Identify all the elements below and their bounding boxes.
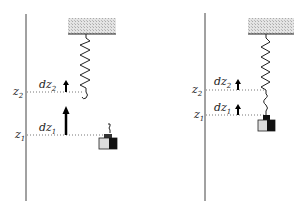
spring-hook bbox=[82, 92, 88, 99]
spring-coil bbox=[261, 34, 270, 90]
right-panel: z2 z1 dz2 dz1 bbox=[191, 13, 294, 201]
dz1-label: dz1 bbox=[39, 121, 56, 136]
z1-label: z1 bbox=[193, 108, 204, 123]
weight-icon bbox=[99, 124, 117, 149]
spring-diagram: z2 z1 dz2 dz1 z2 z1 dz2 dz1 bbox=[0, 0, 308, 214]
z1-label: z1 bbox=[14, 128, 25, 143]
dz2-label: dz2 bbox=[39, 78, 57, 93]
ceiling-block bbox=[248, 18, 294, 34]
z2-label: z2 bbox=[12, 85, 24, 100]
left-panel: z2 z1 dz2 dz1 bbox=[12, 14, 117, 201]
dz2-label: dz2 bbox=[214, 75, 232, 90]
dz2-arrow-icon bbox=[235, 79, 241, 90]
weight-icon bbox=[258, 115, 275, 131]
z2-label: z2 bbox=[191, 83, 203, 98]
ceiling-block bbox=[68, 18, 116, 34]
spring-hook-stretched bbox=[264, 90, 268, 115]
dz1-arrow-icon bbox=[235, 104, 241, 115]
dz1-arrow-icon bbox=[63, 106, 70, 135]
dz2-arrow-icon bbox=[63, 80, 69, 92]
dz1-label: dz1 bbox=[214, 101, 231, 116]
spring-coil bbox=[80, 34, 90, 92]
